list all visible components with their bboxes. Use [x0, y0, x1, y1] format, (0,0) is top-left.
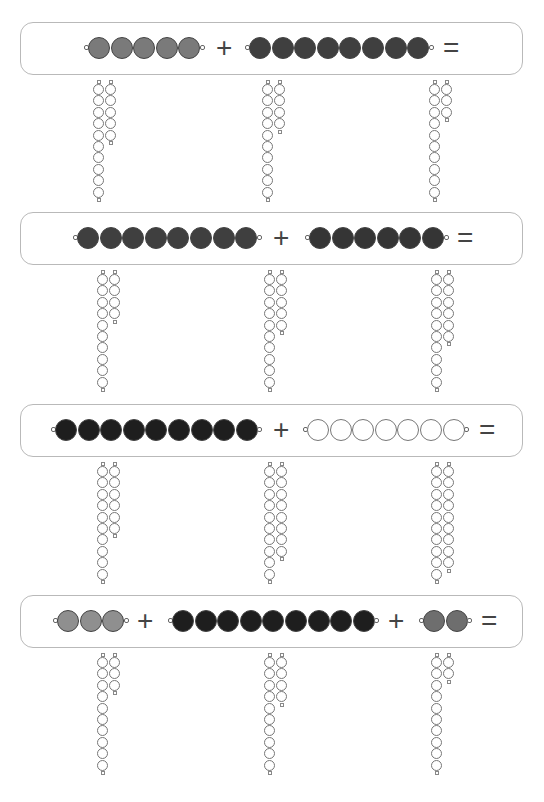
chain-bead-icon	[274, 118, 285, 129]
chain-bead-icon	[429, 152, 440, 163]
chain-bead-icon	[264, 512, 275, 523]
answer-option-14[interactable]	[97, 273, 123, 399]
answer-option-14[interactable]	[262, 83, 288, 209]
answer-option-16[interactable]	[97, 465, 123, 591]
chain-end-icon	[101, 771, 105, 775]
chain-bead-icon	[109, 523, 120, 534]
bead-icon	[262, 610, 284, 632]
chain-bead-icon	[97, 668, 108, 679]
chain-bead-icon	[262, 152, 273, 163]
bead-icon	[362, 37, 384, 59]
chain-bead-icon	[105, 95, 116, 106]
answer-option-12[interactable]	[431, 656, 457, 782]
chain-bead-icon	[431, 657, 442, 668]
bead-icon	[167, 227, 189, 249]
chain-bead-icon	[97, 725, 108, 736]
bead-icon	[100, 227, 122, 249]
chain-bead-icon	[276, 320, 287, 331]
bead-icon	[240, 610, 262, 632]
answer-option-18[interactable]	[264, 465, 290, 591]
chain-bead-icon	[93, 164, 104, 175]
chain-bead-icon	[109, 308, 120, 319]
chain-bead-icon	[264, 477, 275, 488]
chain-bead-icon	[109, 489, 120, 500]
chain-bead-icon	[97, 691, 108, 702]
bar-hook-icon	[444, 235, 449, 240]
bead-icon	[397, 419, 419, 441]
chain-bead-icon	[105, 107, 116, 118]
bead-icon	[145, 419, 167, 441]
chain-bead-icon	[97, 331, 108, 342]
answer-option-14[interactable]	[264, 656, 290, 782]
chain-bead-icon	[109, 477, 120, 488]
chain-bead-icon	[93, 152, 104, 163]
chain-bead-icon	[109, 297, 120, 308]
bead-icon	[317, 37, 339, 59]
chain-bead-icon	[264, 308, 275, 319]
chain-bead-icon	[97, 320, 108, 331]
chain-bead-icon	[431, 466, 442, 477]
chain-bead-icon	[276, 297, 287, 308]
chain-bead-icon	[431, 365, 442, 376]
bead-icon	[123, 419, 145, 441]
bead-icon	[249, 37, 271, 59]
chain-bead-icon	[443, 557, 454, 568]
chain-end-icon	[101, 580, 105, 584]
chain-bead-icon	[264, 489, 275, 500]
chain-bead-icon	[274, 95, 285, 106]
chain-bead-icon	[97, 500, 108, 511]
chain-bead-icon	[264, 680, 275, 691]
chain-end-icon	[280, 557, 284, 561]
chain-bead-icon	[97, 546, 108, 557]
chain-bead-icon	[264, 668, 275, 679]
bead-icon	[330, 419, 352, 441]
bead-icon	[332, 227, 354, 249]
chain-bead-icon	[431, 680, 442, 691]
chain-bead-icon	[93, 141, 104, 152]
chain-bead-icon	[431, 377, 442, 388]
plus-sign: +	[388, 607, 404, 635]
chain-bead-icon	[264, 691, 275, 702]
chain-bead-icon	[429, 84, 440, 95]
chain-bead-icon	[431, 569, 442, 580]
bead-icon	[422, 227, 444, 249]
chain-bead-icon	[441, 95, 452, 106]
chain-bead-icon	[431, 331, 442, 342]
chain-bead-icon	[429, 187, 440, 198]
bead-icon	[354, 227, 376, 249]
chain-bead-icon	[97, 365, 108, 376]
chain-bead-icon	[97, 534, 108, 545]
bead-icon	[407, 37, 429, 59]
chain-bead-icon	[431, 725, 442, 736]
chain-bead-icon	[429, 118, 440, 129]
chain-end-icon	[445, 118, 449, 122]
answer-option-16[interactable]	[431, 273, 457, 399]
answer-option-15[interactable]	[93, 83, 119, 209]
chain-bead-icon	[264, 500, 275, 511]
plus-sign: +	[273, 416, 289, 444]
chain-bead-icon	[443, 285, 454, 296]
chain-bead-icon	[97, 680, 108, 691]
answer-option-13[interactable]	[429, 83, 455, 209]
chain-bead-icon	[264, 354, 275, 365]
chain-bead-icon	[443, 477, 454, 488]
chain-bead-icon	[276, 274, 287, 285]
answer-option-19[interactable]	[431, 465, 457, 591]
bead-icon	[133, 37, 155, 59]
chain-bead-icon	[431, 737, 442, 748]
answer-option-13[interactable]	[97, 656, 123, 782]
chain-bead-icon	[264, 523, 275, 534]
chain-bead-icon	[97, 657, 108, 668]
chain-bead-icon	[97, 748, 108, 759]
bead-bar-3	[57, 610, 135, 634]
chain-bead-icon	[441, 107, 452, 118]
bead-icon	[272, 37, 294, 59]
bead-icon	[235, 227, 257, 249]
answer-option-15[interactable]	[264, 273, 290, 399]
chain-bead-icon	[264, 466, 275, 477]
bead-icon	[294, 37, 316, 59]
chain-bead-icon	[443, 331, 454, 342]
chain-bead-icon	[109, 680, 120, 691]
chain-bead-icon	[93, 118, 104, 129]
chain-bead-icon	[276, 512, 287, 523]
